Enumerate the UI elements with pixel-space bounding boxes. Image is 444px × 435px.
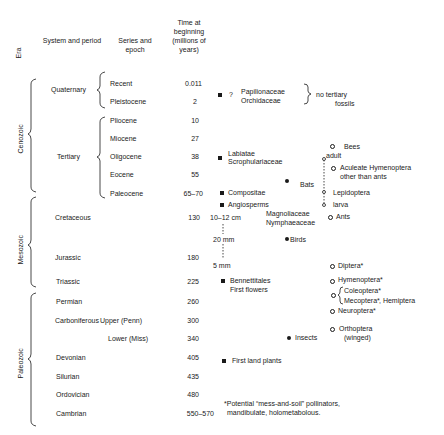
system-silurian: Silurian: [56, 372, 79, 381]
plant-marker-square-icon: [218, 93, 222, 97]
series-paleocene: Paleocene: [110, 189, 143, 198]
series-pliocene: Pliocene: [110, 116, 137, 125]
system-carboniferous: Carboniferous: [55, 316, 99, 325]
plant-magnoliaceae: Magnoliaceae: [266, 209, 310, 218]
insect-bees: Bees: [344, 142, 360, 151]
time-permian: 260: [170, 297, 199, 306]
plant-angiosperms: Angiosperms: [228, 200, 269, 209]
header-system: System and period: [42, 36, 102, 45]
insect-lepidoptera: Lepidoptera: [333, 188, 370, 197]
insect-mecoptera: Mecoptera*: [344, 296, 380, 305]
insect-ants: Ants: [336, 212, 350, 221]
plant-bennettitales: Bennettitales: [230, 276, 270, 285]
series-recent: Recent: [110, 79, 132, 88]
system-devonian: Devonian: [56, 353, 86, 362]
plant-first-land-plants: First land plants: [232, 356, 281, 365]
time-ordovician: 480: [170, 390, 199, 399]
series-upper-penn: Upper (Penn): [100, 316, 142, 325]
series-miocene: Miocene: [110, 134, 136, 143]
insect-diptera: Diptera*: [338, 261, 363, 270]
time-silurian: 435: [170, 372, 199, 381]
insect-adult: adult: [326, 151, 341, 160]
system-permian: Permian: [56, 297, 82, 306]
series-lower-miss: Lower (Miss): [108, 334, 148, 343]
time-miocene: 27: [170, 134, 199, 143]
era-paleozoic: Paleozoic: [17, 339, 24, 379]
insect-aculeate-2: other than ants: [340, 172, 387, 181]
time-carboniferous-upper: 300: [170, 316, 199, 325]
time-devonian: 405: [170, 353, 199, 362]
size-20mm: 20 mm: [213, 235, 234, 244]
insect-coleoptera: Coleoptera*: [344, 286, 381, 295]
header-time: Time at beginning (millions of years): [165, 18, 213, 54]
insect-marker-circle-icon: [330, 264, 335, 269]
header-era: Era: [15, 31, 22, 59]
time-cretaceous: 130: [170, 213, 200, 222]
note-no-tertiary: no tertiary: [316, 90, 347, 99]
time-jurassic: 180: [170, 253, 199, 262]
plant-nymphaeaceae: Nymphaeaceae: [266, 218, 315, 227]
insect-marker-circle-icon: [330, 327, 335, 332]
plant-first-flowers: First flowers: [230, 285, 268, 294]
footnote-line1: *Potential “mess-and-soil” pollinators,: [224, 399, 340, 408]
insect-hemiptera: , Hemiptera: [379, 296, 415, 305]
time-oligocene: 38: [170, 152, 199, 161]
animal-marker-dot-icon: [287, 336, 291, 340]
system-triassic: Triassic: [56, 277, 80, 286]
plant-marker-square-icon: [220, 191, 224, 195]
system-jurassic: Jurassic: [55, 253, 81, 262]
plant-marker-square-icon: [221, 279, 225, 283]
system-tertiary: Tertiary: [57, 152, 80, 161]
insect-hymenoptera: Hymenoptera*: [338, 275, 383, 284]
plant-marker-square-icon: [222, 359, 226, 363]
plant-marker-square-icon: [218, 156, 222, 160]
animal-bats: Bats: [300, 180, 314, 189]
size-5mm: 5 mm: [213, 261, 231, 270]
era-cenozoic: Cenozoic: [17, 114, 24, 154]
insect-marker-circle-icon: [330, 279, 335, 284]
system-ordovician: Ordovician: [56, 390, 89, 399]
insect-marker-circle-icon: [331, 293, 336, 298]
series-oligocene: Oligocene: [110, 152, 142, 161]
animal-marker-dot-icon: [285, 179, 289, 183]
insect-marker-circle-icon: [330, 309, 335, 314]
insect-aculeate-1: Aculeate Hymenoptera: [340, 163, 411, 172]
time-pliocene: 10: [170, 116, 199, 125]
series-pleistocene: Pleistocene: [110, 97, 146, 106]
time-pleistocene: 2: [170, 97, 197, 106]
plant-scrophulariaceae: Scrophulariaceae: [228, 157, 282, 166]
time-paleocene: 65–70: [170, 189, 203, 198]
insect-orthoptera-2: (winged): [344, 333, 371, 342]
insect-orthoptera-1: Orthoptera: [339, 324, 372, 333]
insect-marker-circle-icon: [328, 215, 333, 220]
insect-larva: larva: [333, 200, 348, 209]
size-10-12cm: 10–12 cm: [210, 213, 241, 222]
time-carboniferous-lower: 340: [170, 334, 199, 343]
animal-marker-dot-icon: [285, 237, 289, 241]
question-mark: ?: [229, 90, 233, 99]
note-fossils: fossils: [335, 99, 354, 108]
plant-compositae: Compositae: [228, 188, 265, 197]
series-eocene: Eocene: [110, 170, 134, 179]
animal-insects: Insects: [295, 333, 317, 342]
animal-birds: Birds: [290, 235, 306, 244]
insect-neuroptera: Neuroptera*: [338, 306, 376, 315]
footnote-line2: mandibulate, holometabolous.: [227, 408, 320, 417]
system-quaternary: Quaternary: [51, 85, 86, 94]
insect-marker-circle-icon: [331, 166, 336, 171]
time-recent: 0.011: [170, 79, 202, 88]
time-eocene: 55: [170, 170, 199, 179]
plant-orchidaceae: Orchidaceae: [241, 96, 281, 105]
era-mesozoic: Mesozoic: [17, 225, 24, 265]
system-cretaceous: Cretaceous: [55, 213, 91, 222]
header-series: Series and epoch: [110, 36, 160, 54]
plant-marker-square-icon: [220, 203, 224, 207]
time-triassic: 225: [170, 277, 199, 286]
system-cambrian: Cambrian: [56, 409, 86, 418]
time-cambrian: 550–570: [170, 409, 214, 418]
insect-marker-circle-icon: [330, 144, 335, 149]
plant-papilionaceae: Papilionaceae: [241, 87, 285, 96]
